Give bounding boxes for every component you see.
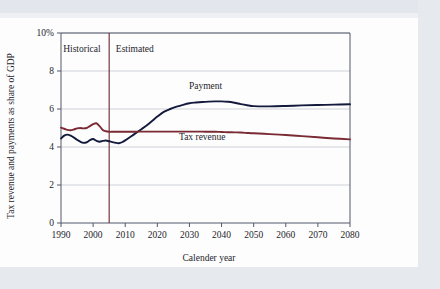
y-tick-label-6: 6 [49,104,54,114]
y-axis-ticks: 0246810% [37,28,61,228]
x-tick-label-2000: 2000 [84,230,103,240]
y-tick-label-0: 0 [49,218,54,228]
tax-revenue-label: Tax revenue [179,132,226,142]
y-tick-label-10: 10% [37,28,55,38]
x-tick-label-2030: 2030 [180,230,199,240]
x-tick-label-2040: 2040 [212,230,231,240]
x-tick-label-1990: 1990 [52,230,71,240]
y-tick-label-4: 4 [49,142,54,152]
scan-edge-top [0,0,440,13]
scan-edge-right [418,0,440,289]
x-tick-label-2050: 2050 [244,230,263,240]
x-axis-title: Calender year [182,253,236,263]
screenshot-page: 1990200020102020203020402050206020702080… [0,0,440,289]
y-tick-label-2: 2 [49,180,54,190]
estimated-label: Estimated [116,44,154,54]
payment-label: Payment [189,81,223,91]
gridlines [61,33,350,185]
x-tick-label-2060: 2060 [276,230,295,240]
x-tick-label-2010: 2010 [116,230,135,240]
figure-container: 1990200020102020203020402050206020702080… [0,18,418,267]
x-tick-label-2070: 2070 [308,230,327,240]
x-axis-ticks: 1990200020102020203020402050206020702080 [52,223,360,240]
scan-edge-bottom [0,267,440,289]
historical-label: Historical [63,44,101,54]
line-chart: 1990200020102020203020402050206020702080… [0,18,418,267]
y-axis-title: Tax revenue and payments as share of GDP [6,53,16,219]
x-tick-label-2080: 2080 [341,230,360,240]
y-tick-label-8: 8 [49,66,54,76]
axes [61,33,350,223]
x-tick-label-2020: 2020 [148,230,167,240]
